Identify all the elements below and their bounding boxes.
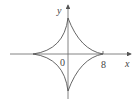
x-axis-label: x [124, 58, 130, 69]
origin-label: 0 [60, 57, 65, 68]
astroid-diagram: y 0 8 x [0, 0, 138, 102]
x-tick-label: 8 [101, 59, 106, 70]
y-axis-label: y [56, 5, 62, 16]
